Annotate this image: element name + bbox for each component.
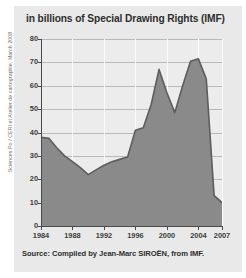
y-tick-label: 30	[22, 152, 38, 160]
plot-area	[41, 39, 222, 226]
x-tick-mark	[104, 227, 105, 230]
x-tick-mark	[41, 227, 42, 230]
x-tick-mark	[135, 227, 136, 230]
x-tick-label: 2000	[152, 231, 182, 240]
x-tick-label: 1984	[26, 231, 56, 240]
y-tick-mark	[38, 86, 41, 87]
y-tick-mark	[38, 179, 41, 180]
x-tick-label: 1988	[57, 231, 87, 240]
x-axis-line	[41, 226, 223, 227]
source-note: Source: Compiled by Jean-Marc SIROËN, fr…	[22, 249, 204, 258]
x-tick-mark	[198, 227, 199, 230]
x-tick-label: 2007	[207, 231, 237, 240]
y-axis-line	[41, 39, 42, 227]
y-tick-mark	[38, 203, 41, 204]
area-series	[41, 39, 222, 226]
y-tick-label: 50	[22, 105, 38, 113]
chart-figure: Sciences Po / CERI et Atelier de cartogr…	[0, 0, 246, 278]
y-tick-label: 80	[22, 35, 38, 43]
y-tick-label: 70	[22, 58, 38, 66]
y-tick-label: 40	[22, 129, 38, 137]
x-tick-label: 1996	[120, 231, 150, 240]
y-tick-label: 10	[22, 199, 38, 207]
y-tick-mark	[38, 109, 41, 110]
y-tick-label: 0	[22, 222, 38, 230]
y-tick-mark	[38, 62, 41, 63]
credit-text: Sciences Po / CERI et Atelier de cartogr…	[4, 17, 16, 187]
y-tick-mark	[38, 156, 41, 157]
x-tick-mark	[222, 227, 223, 230]
x-tick-mark	[167, 227, 168, 230]
y-tick-mark	[38, 133, 41, 134]
x-tick-label: 1992	[89, 231, 119, 240]
y-tick-mark	[38, 39, 41, 40]
y-tick-label: 60	[22, 82, 38, 90]
y-tick-label: 20	[22, 175, 38, 183]
chart-title: in billions of Special Drawing Rights (I…	[26, 13, 232, 24]
gridline-vertical	[222, 39, 223, 226]
x-tick-mark	[72, 227, 73, 230]
